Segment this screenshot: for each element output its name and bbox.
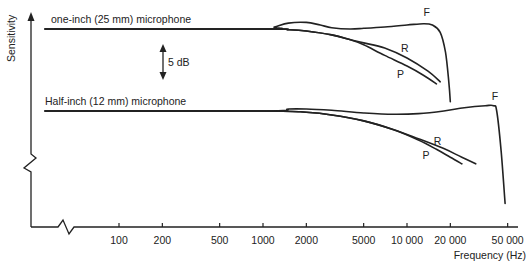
x-tick-label: 10 000 [391,234,423,246]
y-axis [24,18,36,227]
curve-label-one-inch-F: F [423,6,429,18]
scale-marker: 5 dB [160,44,190,80]
curve-half-inch-P [45,111,462,164]
x-tick-label: 1000 [251,234,275,246]
curve-label-one-inch-P: P [397,68,404,80]
x-tick-label: 50 000 [492,234,524,246]
x-tick-label: 20 000 [434,234,466,246]
x-tick-label: 2000 [295,234,319,246]
curve-one-inch-F [45,22,450,101]
one-inch-microphone-label: one-inch (25 mm) microphone [51,13,191,25]
frequency-response-chart: Sensitivity 10020050010002000500010 0002… [0,0,531,265]
half-inch-microphone-label: Half-inch (12 mm) microphone [45,95,186,107]
scale-arrow-down-icon [160,72,167,80]
y-axis-arrow-icon [28,12,35,21]
scale-marker-label: 5 dB [168,56,190,68]
x-tick-label: 100 [110,234,128,246]
curves [45,22,505,203]
curve-half-inch-F [45,105,505,203]
curve-label-half-inch-P: P [422,149,429,161]
x-tick-label: 5000 [352,234,376,246]
scale-arrow-up-icon [160,44,167,52]
curve-one-inch-R [45,29,440,82]
curve-label-half-inch-F: F [492,90,498,102]
x-axis [31,220,518,234]
curve-one-inch-P [45,29,436,84]
x-tick-label: 500 [211,234,229,246]
y-axis-line [24,18,36,227]
curve-label-one-inch-R: R [401,42,409,54]
x-axis-label: Frequency (Hz) [454,249,526,261]
curve-label-half-inch-R: R [434,135,442,147]
x-tick-label: 200 [154,234,172,246]
y-axis-label: Sensitivity [5,14,17,62]
x-axis-line [31,220,518,234]
